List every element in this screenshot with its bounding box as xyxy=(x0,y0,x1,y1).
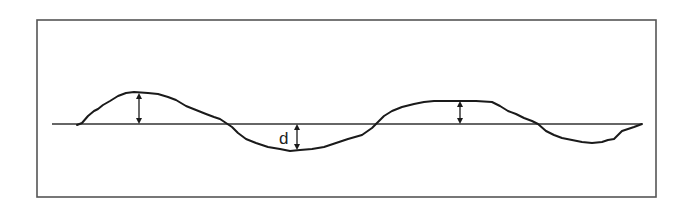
arrow-up-icon xyxy=(136,93,142,99)
arrow-down-icon xyxy=(457,118,463,124)
arrow-down-icon xyxy=(136,118,142,124)
peak-2-deviation-arrow xyxy=(457,101,463,124)
trough-1-deviation-arrow xyxy=(294,124,300,150)
arrow-up-icon xyxy=(294,124,300,130)
deviation-label-d: d xyxy=(279,129,288,148)
diagram-frame xyxy=(37,20,656,197)
peak-1-deviation-arrow xyxy=(136,93,142,124)
roughness-profile-diagram: d xyxy=(0,0,694,203)
surface-profile-curve xyxy=(77,92,642,151)
